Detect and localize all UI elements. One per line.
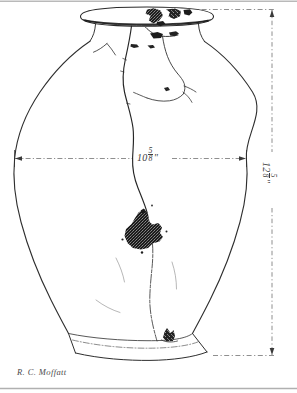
- height-fraction-denominator: 8: [261, 173, 268, 178]
- vessel: [14, 7, 257, 360]
- vessel-neck: [90, 24, 204, 41]
- height-fraction: 58: [261, 173, 277, 178]
- lower-body-hairlines: [96, 258, 177, 313]
- vessel-shoulder-cracks: [94, 27, 197, 104]
- artist-signature: R. C. Moffatt: [17, 368, 67, 377]
- vessel-illustration-plate: 1058" 1258" R. C. Moffatt: [0, 0, 297, 393]
- shoulder-damage-patches: [130, 31, 179, 91]
- height-value: 12: [261, 162, 272, 173]
- body-sherd-loss: [121, 205, 167, 254]
- height-dimension-label: 1258": [261, 162, 277, 183]
- width-dimension-label: 1058": [137, 147, 158, 163]
- vessel-drawing-svg: [0, 0, 297, 393]
- vessel-base: [69, 334, 208, 361]
- vessel-main-crack: [123, 26, 157, 341]
- width-fraction: 58: [148, 147, 153, 163]
- width-fraction-denominator: 8: [148, 155, 153, 162]
- vessel-left-profile: [14, 41, 90, 333]
- plate-border: [0, 1, 297, 388]
- width-value: 10: [137, 152, 148, 163]
- height-unit: ": [261, 179, 272, 184]
- width-unit: ": [154, 152, 159, 163]
- height-fraction-numerator: 5: [269, 173, 277, 178]
